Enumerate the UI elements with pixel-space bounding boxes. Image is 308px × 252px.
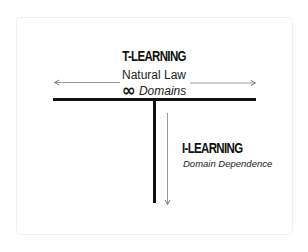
domains-text: Domains [139,84,186,98]
t-learning-title: T-LEARNING [113,49,195,64]
domain-dependence-label: Domain Dependence [183,158,272,169]
infinite-domains-label: ∞Domains [104,83,204,98]
t-vertical-bar [153,99,156,203]
natural-law-label: Natural Law [104,68,204,82]
infinity-icon: ∞ [122,80,136,100]
i-learning-title: I-LEARNING [182,141,242,156]
